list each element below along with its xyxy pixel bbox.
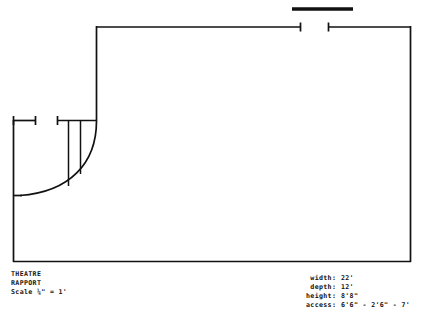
spec-value-depth: 12' bbox=[341, 283, 354, 292]
spec-label-depth: depth bbox=[288, 283, 332, 292]
spec-value-width: 22' bbox=[341, 274, 354, 283]
title-block: THEATRE RAPPORT Scale ¼" = 1' bbox=[11, 270, 67, 297]
spec-row-width: width:22' bbox=[262, 265, 410, 274]
floor-plan-drawing bbox=[0, 0, 421, 310]
spec-label-height: height bbox=[288, 292, 332, 301]
spec-label-width: width bbox=[288, 274, 332, 283]
spec-colon-depth: : bbox=[332, 283, 341, 292]
spec-colon-height: : bbox=[332, 292, 341, 301]
spec-colon-width: : bbox=[332, 274, 341, 283]
venue-name: THEATRE bbox=[11, 270, 67, 279]
floor-plan-page: THEATRE RAPPORT Scale ¼" = 1' width:22' … bbox=[0, 0, 421, 310]
curved-apron-edge bbox=[20, 121, 97, 196]
spec-colon-access: : bbox=[332, 301, 341, 310]
specifications-block: width:22' depth:12' height:8'8" access:6… bbox=[262, 265, 410, 301]
scale-note: Scale ¼" = 1' bbox=[11, 288, 67, 297]
spec-value-access: 6'6" - 2'6" - 7' bbox=[341, 301, 410, 310]
spec-label-access: access bbox=[288, 301, 332, 310]
venue-subtitle: RAPPORT bbox=[11, 279, 67, 288]
spec-value-height: 8'8" bbox=[341, 292, 358, 301]
